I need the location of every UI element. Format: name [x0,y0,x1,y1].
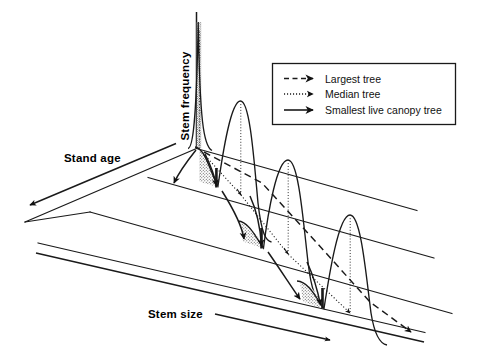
baseline-stand-age-3 [38,243,425,333]
smallest-canopy-segment-2 [222,191,244,239]
baseline-stand-age-1 [148,178,434,259]
distribution-stand-age-1 [195,101,272,242]
smallest-canopy-segment-0 [174,150,196,183]
left-receding-edge-lower [25,212,90,222]
axis-label-stem-size: Stem size [148,308,203,320]
axis-label-stand-age: Stand age [64,152,121,164]
distribution-stand-age-0 [188,22,212,151]
axis-label-stem-frequency: Stem frequency [179,51,191,140]
smallest-canopy-segment-4 [268,252,300,299]
legend-label-largest-tree: Largest tree [325,73,381,85]
baseline-stand-age-2 [90,212,452,314]
ground-plane-grid [25,149,452,333]
suppressed-stems-shading-1 [199,149,216,186]
legend: Largest tree Median tree Smallest live c… [273,64,456,125]
legend-label-median-tree: Median tree [325,88,381,100]
smallest-canopy-bottom-arrow [215,314,330,340]
stem-size-distribution-figure: Stem frequency Stand age Stem size Large… [0,0,479,356]
median-tree-arrowhead-2 [284,248,288,254]
legend-label-smallest-canopy-tree: Smallest live canopy tree [325,104,442,116]
distribution-stand-age-2 [238,160,322,301]
baseline-stand-age-0 [197,149,418,211]
